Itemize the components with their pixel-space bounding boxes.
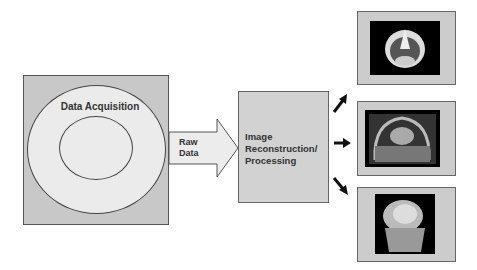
- data-acquisition-label: Data Acquisition: [40, 101, 160, 112]
- inner-circle: [59, 116, 133, 180]
- image-reconstruction-label: Image Reconstruction/ Processing: [245, 131, 317, 167]
- head-scan-image: [370, 21, 440, 75]
- knee-rendering-image: [375, 194, 435, 254]
- output-arrows-icon: [330, 90, 360, 210]
- raw-data-label: Raw Data: [179, 137, 199, 159]
- chest-scan-image: [365, 110, 440, 167]
